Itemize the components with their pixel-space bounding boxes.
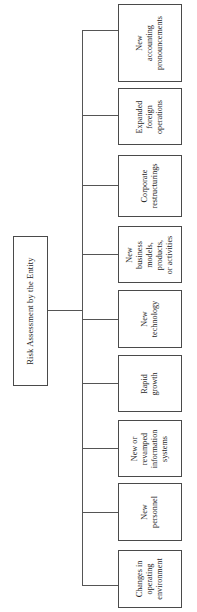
child-node-label: Newbusinessmodels,products,or activities <box>125 235 175 273</box>
child-node-label: New orrevampedinformationsystems <box>130 429 170 468</box>
risk-assessment-tree-diagram: Risk Assessment by the Entity Newaccount… <box>0 0 197 612</box>
child-node-corporate-restructurings[interactable]: Corporaterestructurings <box>118 155 182 217</box>
connector-branch-6 <box>82 383 118 384</box>
connector-branch-5 <box>82 319 118 320</box>
child-node-label: Rapidgrowth <box>140 372 160 395</box>
child-node-label: Corporaterestructurings <box>140 163 160 208</box>
connector-branch-4 <box>82 254 118 255</box>
child-node-label: Newpersonnel <box>140 496 160 528</box>
connector-branch-1 <box>82 30 118 31</box>
child-node-rapid-growth[interactable]: Rapidgrowth <box>118 355 182 412</box>
connector-branch-3 <box>82 185 118 186</box>
connector-branch-2 <box>82 115 118 116</box>
connector-branch-9 <box>82 585 118 586</box>
child-node-label: Newaccountingpronouncements <box>135 16 165 70</box>
connector-branch-7 <box>82 448 118 449</box>
root-node-risk-assessment[interactable]: Risk Assessment by the Entity <box>13 236 48 386</box>
child-node-new-accounting-pronouncements[interactable]: Newaccountingpronouncements <box>118 4 182 82</box>
child-node-label: Newtechnology <box>140 301 160 337</box>
child-node-new-or-revamped-information-systems[interactable]: New orrevampedinformationsystems <box>118 420 182 477</box>
connector-root-to-trunk <box>48 310 82 311</box>
child-node-expanded-foreign-operations[interactable]: Expandedforeignoperations <box>118 88 182 145</box>
child-node-changes-in-operating-environment[interactable]: Changes inoperatingenvironment <box>118 550 182 608</box>
child-node-label: Expandedforeignoperations <box>135 99 165 133</box>
child-node-new-personnel[interactable]: Newpersonnel <box>118 483 182 541</box>
connector-trunk <box>82 30 83 585</box>
connector-branch-8 <box>82 512 118 513</box>
child-node-new-technology[interactable]: Newtechnology <box>118 290 182 348</box>
child-node-new-business-models[interactable]: Newbusinessmodels,products,or activities <box>118 226 182 283</box>
root-node-label: Risk Assessment by the Entity <box>26 257 36 364</box>
child-node-label: Changes inoperatingenvironment <box>135 558 165 599</box>
